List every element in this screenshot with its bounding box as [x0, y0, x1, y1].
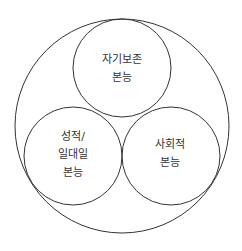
label-line: 사회적 [155, 136, 185, 154]
sexual-label: 성적/ 일대일 본능 [58, 128, 88, 182]
label-line: 성적/ [58, 128, 88, 146]
self-preservation-label: 자기보존 본능 [102, 51, 142, 87]
social-label: 사회적 본능 [155, 136, 185, 172]
label-line: 본능 [102, 69, 142, 87]
label-line: 본능 [58, 164, 88, 182]
label-line: 자기보존 [102, 51, 142, 69]
label-line: 본능 [155, 154, 185, 172]
label-line: 일대일 [58, 146, 88, 164]
diagram-canvas [0, 0, 242, 251]
